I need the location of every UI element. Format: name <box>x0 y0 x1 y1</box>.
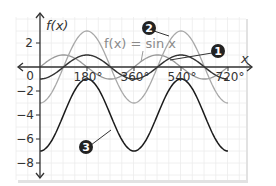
chart: 2 0 −2 −4 −6 −8 180° 360° 540° 720° f(x)… <box>0 0 276 186</box>
x-tick-540: 540° <box>168 70 197 84</box>
y-tick-minus-6: −6 <box>16 132 34 146</box>
x-tick-180: 180° <box>74 70 103 84</box>
x-tick-360: 360° <box>121 70 150 84</box>
x-axis-label: x <box>240 51 249 66</box>
y-tick-2: 2 <box>25 36 33 50</box>
equation-label: f(x) = sin x <box>104 36 176 51</box>
y-tick-minus-4: −4 <box>16 108 34 122</box>
y-tick-minus-8: −8 <box>16 156 34 170</box>
x-tick-720: 720° <box>216 70 245 84</box>
badge-3-text: 3 <box>82 141 90 154</box>
origin-label: 0 <box>26 69 34 83</box>
y-axis-label: f(x) <box>46 18 68 33</box>
y-tick-minus-2: −2 <box>16 84 34 98</box>
badge-2-text: 2 <box>145 22 153 35</box>
badge-1-text: 1 <box>214 45 222 58</box>
